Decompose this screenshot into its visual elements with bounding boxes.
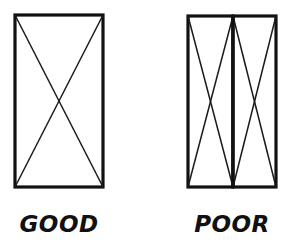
figure-poor (188, 16, 276, 187)
caption-good: GOOD (19, 211, 98, 237)
diagram-canvas: GOOD POOR (0, 0, 286, 246)
caption-poor: POOR (194, 211, 270, 237)
figure-good (15, 15, 103, 187)
